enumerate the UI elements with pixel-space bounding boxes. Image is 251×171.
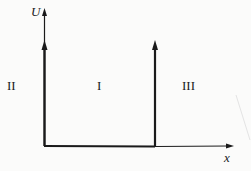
x-axis-arrowhead-icon xyxy=(226,144,234,149)
region-label-i: I xyxy=(97,79,101,92)
region-label-ii: II xyxy=(7,79,16,92)
left-wall-arrow-icon xyxy=(42,40,48,50)
region-label-iii: III xyxy=(182,79,195,92)
right-wall-arrow-icon xyxy=(152,40,158,50)
scan-artifact xyxy=(236,95,250,140)
x-axis-label: x xyxy=(224,151,230,164)
u-axis-arrowhead-icon xyxy=(42,8,47,16)
potential-well-diagram xyxy=(0,0,251,171)
x-axis xyxy=(155,146,228,147)
u-axis-label: U xyxy=(31,5,40,18)
well-floor xyxy=(44,146,155,147)
